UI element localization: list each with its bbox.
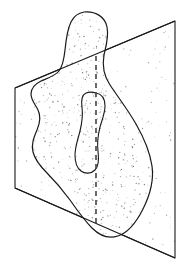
- figure-container: Irregular solid intersected by a cutting…: [0, 0, 191, 278]
- blob-plane-figure: [0, 0, 191, 278]
